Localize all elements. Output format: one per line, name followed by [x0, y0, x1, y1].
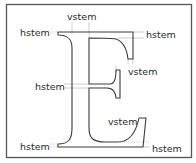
letter-e-outline: [58, 32, 146, 147]
label-top-right-hstem: hstem: [146, 29, 176, 40]
label-top-left-hstem: hstem: [20, 27, 50, 38]
label-bottom-vstem: vstem: [108, 116, 137, 127]
label-mid-right-vstem: vstem: [128, 66, 157, 77]
label-bottom-right-hstem: hstem: [152, 143, 182, 154]
stem-hints-diagram: vstem hstem hstem vstem hstem vstem hste…: [0, 0, 196, 163]
label-bottom-left-hstem: hstem: [20, 141, 50, 152]
label-top-vstem: vstem: [67, 11, 96, 22]
label-mid-left-hstem: hstem: [35, 81, 65, 92]
